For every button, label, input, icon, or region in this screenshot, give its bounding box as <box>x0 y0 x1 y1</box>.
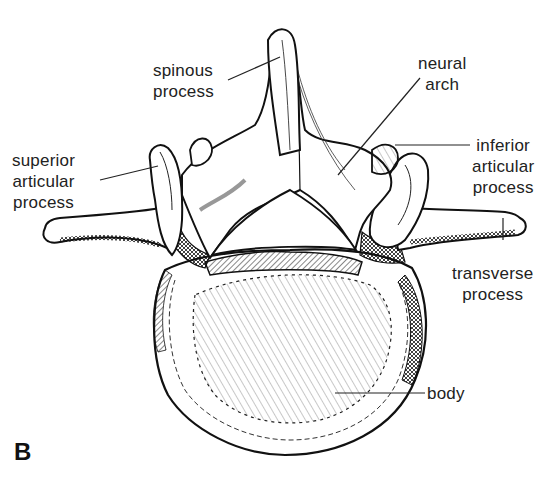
vertebra-illustration <box>0 0 551 488</box>
label-text: body <box>427 383 465 404</box>
label-text: arch <box>418 74 466 95</box>
label-text: spinous <box>153 60 214 81</box>
label-text: transverse <box>452 263 533 284</box>
label-text: process <box>452 284 533 305</box>
label-text: articular <box>472 156 534 177</box>
label-text: process <box>472 177 534 198</box>
label-superior-articular-process: superior articular process <box>12 150 75 213</box>
label-text: process <box>153 81 214 102</box>
leader-superior-articular-process <box>100 166 158 180</box>
label-text: superior <box>12 150 75 171</box>
left-transverse-process <box>43 208 172 250</box>
label-spinous-process: spinous process <box>153 60 214 102</box>
vertebra-diagram: spinous process neural arch superior art… <box>0 0 551 488</box>
vertebral-body <box>153 249 426 455</box>
panel-letter: B <box>14 438 31 466</box>
label-neural-arch: neural arch <box>418 53 466 95</box>
label-text: process <box>12 192 75 213</box>
label-inferior-articular-process: inferior articular process <box>472 135 534 198</box>
label-transverse-process: transverse process <box>452 263 533 305</box>
label-text: neural <box>418 53 466 74</box>
label-text: articular <box>12 171 75 192</box>
label-body: body <box>427 383 465 404</box>
label-text: inferior <box>472 135 534 156</box>
